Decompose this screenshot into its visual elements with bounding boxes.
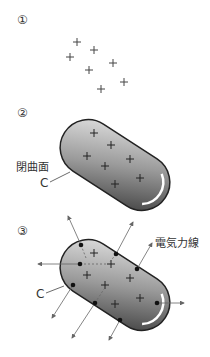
panel-number: ① (17, 13, 28, 27)
curve-label: C (40, 176, 48, 190)
panel-1: ① (17, 13, 128, 93)
field-line-label: 電気力線 (155, 236, 199, 250)
closed-surface (49, 109, 180, 221)
panel-2: ② 閉曲面 C (16, 106, 181, 221)
panel-number: ② (17, 106, 28, 120)
gauss-law-diagram: ① ② 閉曲面 C ③ (0, 0, 210, 357)
curve-label: C (36, 287, 44, 301)
closed-surface-label: 閉曲面 (16, 161, 49, 174)
charges (66, 38, 128, 93)
panel-3: ③ (17, 216, 199, 341)
panel-number: ③ (17, 224, 28, 238)
